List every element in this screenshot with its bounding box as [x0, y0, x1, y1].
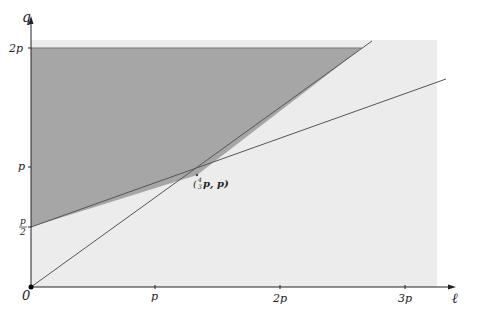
x-tick-label-p: p — [151, 290, 158, 303]
y-axis-label: q — [22, 9, 31, 25]
y-tick-label-p-half-den: 2 — [19, 227, 26, 237]
diagram-canvas: q ℓ 0 2p p p 2 p 2p 3p ( 4 3 p, p) — [0, 0, 483, 316]
intersection-label-rest: p, p) — [203, 178, 229, 190]
x-tick-label-2p: 2p — [272, 292, 287, 305]
x-axis-label: ℓ — [452, 290, 458, 306]
intersection-label: ( 4 3 p, p) — [193, 176, 229, 190]
x-tick-label-3p: 3p — [398, 292, 412, 305]
intersection-frac-den: 3 — [198, 183, 202, 190]
y-tick-label-2p: 2p — [8, 42, 23, 55]
y-tick-label-p: p — [18, 160, 25, 173]
x-axis-arrow-icon — [448, 285, 456, 290]
origin-label: 0 — [22, 288, 30, 303]
y-tick-label-p-half-num: p — [20, 216, 26, 226]
intersection-frac-num: 4 — [197, 176, 202, 183]
